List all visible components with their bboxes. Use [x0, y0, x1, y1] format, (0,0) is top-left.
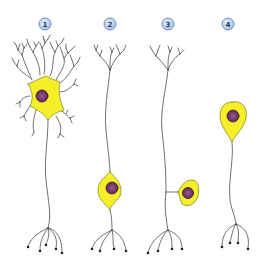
neuron-3-peripheral-process	[162, 70, 168, 192]
badge-4: 4	[222, 18, 234, 30]
neuron-3-axon-terminals	[147, 230, 184, 254]
neuron-3-nucleus	[183, 188, 194, 199]
badge-1: 1	[39, 18, 51, 30]
neuron-4-axon	[230, 142, 236, 224]
neuron-2-axon	[110, 210, 112, 230]
neuron-4-nucleus	[227, 110, 239, 122]
badge-3: 3	[162, 18, 174, 30]
neuron-types-diagram: 1 2 3 4	[0, 0, 265, 267]
badge-1-label: 1	[43, 21, 48, 29]
neuron-3-pseudounipolar	[147, 45, 199, 254]
badge-3-label: 3	[166, 21, 171, 29]
neuron-3-central-process	[165, 192, 168, 230]
neuron-3-dendrites	[150, 45, 184, 70]
neuron-1-multipolar	[12, 35, 80, 254]
neuron-1-axon-terminals	[27, 228, 64, 254]
neuron-2-bipolar	[91, 45, 128, 252]
neuron-1-nucleus	[36, 90, 48, 102]
diagram-canvas: 1 2 3 4	[0, 0, 265, 267]
badge-4-label: 4	[226, 21, 231, 29]
neuron-2-dendrite-trunk	[105, 70, 110, 172]
neuron-2-dendrites	[94, 45, 126, 70]
badge-2-label: 2	[108, 21, 113, 29]
neuron-2-nucleus	[106, 182, 118, 194]
neuron-1-axon	[45, 120, 49, 228]
neuron-2-axon-terminals	[91, 230, 128, 252]
neuron-4-axon-terminals	[221, 224, 250, 250]
neuron-4-unipolar	[220, 102, 249, 251]
badge-2: 2	[104, 18, 116, 30]
